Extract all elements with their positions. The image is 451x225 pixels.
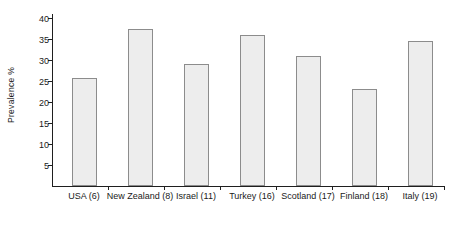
bar	[240, 35, 265, 186]
x-tick-mark	[444, 186, 445, 190]
bar	[296, 56, 321, 186]
x-tick-label: Turkey (16)	[229, 192, 275, 201]
x-tick-mark	[108, 186, 109, 190]
y-tick-label: 35	[39, 35, 49, 44]
x-tick-mark	[388, 186, 389, 190]
x-tick-label: Scotland (17)	[281, 192, 335, 201]
y-tick-label: 20	[39, 98, 49, 107]
y-tick-label: 5	[44, 161, 49, 170]
y-tick-label: 10	[39, 140, 49, 149]
y-tick-label: 30	[39, 56, 49, 65]
y-tick-label: 25	[39, 77, 49, 86]
y-tick-label: 40	[39, 14, 49, 23]
y-axis-label-text: Prevalence %	[6, 67, 16, 123]
x-axis-line	[52, 186, 444, 187]
bar-chart: Prevalence % 510152025303540 USA (6)New …	[0, 0, 451, 225]
x-tick-mark	[276, 186, 277, 190]
bar	[128, 29, 153, 186]
x-tick-mark	[220, 186, 221, 190]
x-tick-label: Israel (11)	[176, 192, 216, 201]
plot-area: 510152025303540	[52, 14, 444, 186]
x-tick-label: USA (6)	[68, 192, 100, 201]
bar	[72, 78, 97, 186]
x-tick-mark	[164, 186, 165, 190]
bar	[408, 41, 433, 186]
x-tick-label: New Zealand (8)	[107, 192, 174, 201]
y-axis-label: Prevalence %	[0, 0, 22, 190]
x-tick-label: Italy (19)	[402, 192, 437, 201]
y-tick-label: 15	[39, 119, 49, 128]
y-axis-line	[52, 14, 53, 186]
x-tick-label: Finland (18)	[340, 192, 388, 201]
x-tick-mark	[332, 186, 333, 190]
bar	[352, 89, 377, 186]
bar	[184, 64, 209, 186]
